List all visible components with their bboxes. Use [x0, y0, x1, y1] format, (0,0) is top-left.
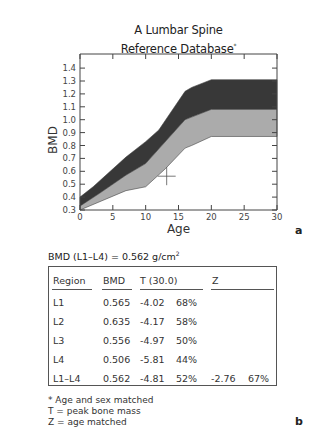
header-z-score: Z: [212, 275, 219, 286]
table-cell: -5.81: [140, 354, 165, 365]
bmd-summary: BMD (L1–L4) = 0.562 g/cm2: [48, 250, 180, 262]
y-axis-label: BMD: [46, 126, 60, 154]
table-cell: 58%: [176, 316, 197, 327]
table-cell: L1: [53, 297, 64, 308]
table-cell: -4.17: [140, 316, 165, 327]
header-region: Region: [53, 275, 86, 286]
panel-label-a: a: [295, 224, 302, 237]
table-cell: 0.556: [103, 335, 130, 346]
table-cell: -4.97: [140, 335, 165, 346]
footnote-age-sex: * Age and sex matched: [48, 395, 153, 406]
y-tick-label: 0.4: [62, 192, 76, 202]
y-tick-label: 0.5: [62, 179, 76, 189]
table-cell: 0.635: [103, 316, 130, 327]
footnote-t: T = peak bone mass: [48, 406, 153, 417]
y-tick-label: 1.2: [62, 89, 76, 99]
header-rule-region: [52, 289, 92, 290]
x-tick-label: 0: [77, 212, 82, 222]
y-tick-label: 0.3: [62, 205, 76, 215]
header-rule-t: [140, 289, 203, 290]
header-bmd: BMD: [103, 275, 125, 286]
table-cell: 52%: [176, 373, 197, 384]
footnote-z: Z = age matched: [48, 417, 153, 428]
y-tick-label: 1.3: [62, 76, 76, 86]
footnotes: * Age and sex matched T = peak bone mass…: [48, 395, 153, 428]
x-tick-label: 25: [239, 212, 250, 222]
bmd-summary-text: BMD (L1–L4) = 0.562 g/cm: [48, 251, 176, 262]
table-cell: 67%: [248, 373, 269, 384]
table-cell: L4: [53, 354, 64, 365]
panel-label-b: b: [295, 415, 303, 428]
table-cell: 68%: [176, 297, 197, 308]
y-tick-label: 1.4: [62, 63, 76, 73]
results-table: Region BMD T (30.0) Z L10.565-4.0268%L20…: [48, 266, 277, 386]
y-tick-label: 0.9: [62, 128, 76, 138]
header-rule-z: [211, 289, 274, 290]
bmd-reference-chart: 0510152025300.30.40.50.60.70.80.91.01.11…: [0, 0, 316, 240]
header-rule-bmd: [102, 289, 132, 290]
table-cell: 0.506: [103, 354, 130, 365]
x-axis-label: Age: [167, 222, 190, 236]
table-cell: L3: [53, 335, 64, 346]
y-tick-label: 1.1: [62, 102, 76, 112]
header-t-score: T (30.0): [140, 275, 177, 286]
bmd-summary-superscript: 2: [176, 250, 180, 257]
table-cell: 44%: [176, 354, 197, 365]
x-tick-label: 5: [110, 212, 115, 222]
table-cell: 0.565: [103, 297, 130, 308]
x-tick-label: 10: [140, 212, 151, 222]
table-cell: L2: [53, 316, 64, 327]
y-tick-label: 0.8: [62, 141, 76, 151]
y-tick-label: 1.0: [62, 115, 76, 125]
table-cell: L1–L4: [53, 373, 80, 384]
x-tick-label: 30: [272, 212, 283, 222]
table-cell: -4.02: [140, 297, 165, 308]
y-tick-label: 0.6: [62, 166, 76, 176]
table-cell: 50%: [176, 335, 197, 346]
x-tick-label: 20: [206, 212, 217, 222]
table-cell: -2.76: [211, 373, 236, 384]
y-tick-label: 0.7: [62, 153, 76, 163]
table-cell: 0.562: [103, 373, 130, 384]
table-cell: -4.81: [140, 373, 165, 384]
x-tick-label: 15: [173, 212, 184, 222]
reference-bands: [80, 80, 277, 210]
